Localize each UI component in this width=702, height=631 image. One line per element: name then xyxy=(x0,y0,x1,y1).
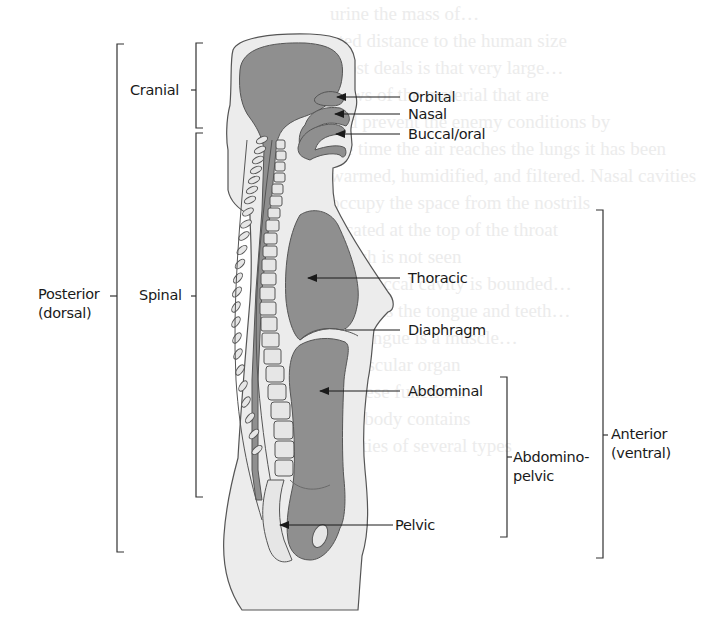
label-buccal-oral: Buccal/oral xyxy=(408,126,485,143)
label-abdominopelvic: Abdomino- xyxy=(513,449,589,466)
label-abdominal: Abdominal xyxy=(408,383,483,400)
body-cavities-diagram xyxy=(0,0,702,631)
label-orbital: Orbital xyxy=(408,89,455,106)
label-dorsal: (dorsal) xyxy=(38,305,91,322)
label-cranial: Cranial xyxy=(130,82,179,99)
label-thoracic: Thoracic xyxy=(408,270,467,287)
label-diaphragm: Diaphragm xyxy=(408,322,486,339)
label-nasal: Nasal xyxy=(408,106,447,123)
label-posterior: Posterior xyxy=(38,286,99,303)
label-pelvic-continued: pelvic xyxy=(513,468,554,485)
label-pelvic: Pelvic xyxy=(395,517,435,534)
label-anterior: Anterior xyxy=(611,426,667,443)
label-spinal: Spinal xyxy=(139,287,182,304)
label-ventral: (ventral) xyxy=(611,445,671,462)
